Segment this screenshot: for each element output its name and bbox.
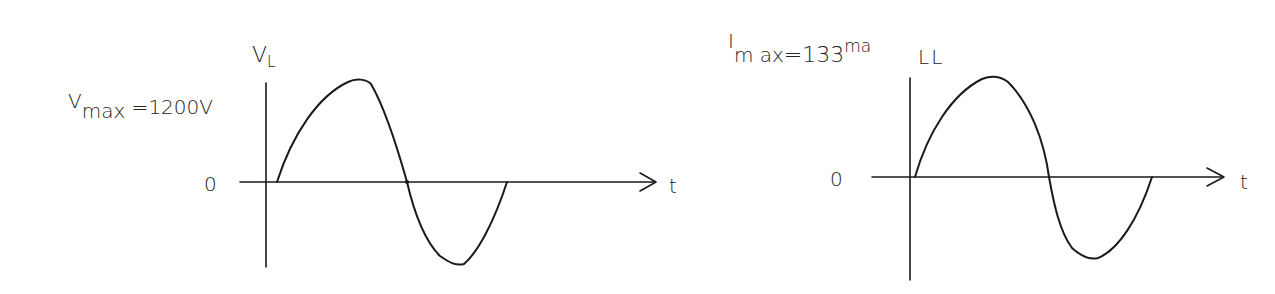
right-max-label: Im ax=133ma	[728, 38, 871, 60]
left-y-axis-label-sub: L	[267, 53, 276, 71]
left-voltage-positive-half	[277, 80, 407, 182]
right-current-negative-half	[1049, 177, 1152, 259]
right-y-axis-label: LL	[918, 47, 944, 67]
right-current-positive-half	[915, 77, 1049, 177]
waveform-plots	[0, 0, 1275, 294]
right-x-axis-label: t	[1240, 172, 1248, 192]
right-max-label-unit: ma	[844, 36, 871, 56]
left-max-label: Vmax =1200V	[68, 97, 213, 117]
left-voltage-negative-half	[407, 182, 507, 265]
waveform-figure: VL Vmax =1200V 0 t Im ax=133ma LL 0 t	[0, 0, 1275, 294]
right-max-label-sub: m ax	[734, 43, 784, 67]
left-max-label-value: =1200V	[125, 95, 213, 119]
left-x-axis-label: t	[669, 176, 677, 196]
right-origin-label: 0	[830, 169, 843, 189]
right-max-label-value: =133	[784, 42, 844, 67]
left-y-axis-label-main: V	[252, 42, 267, 67]
left-max-label-sub: max	[82, 99, 126, 123]
left-origin-label: 0	[204, 174, 217, 194]
left-y-axis-label: VL	[252, 44, 276, 66]
left-max-label-main: V	[68, 89, 82, 113]
